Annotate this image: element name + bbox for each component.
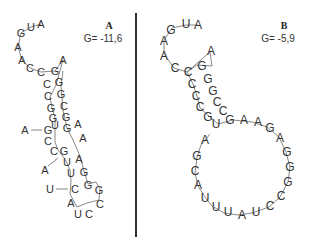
nt-b-loop-5: G [265,121,274,135]
panel-a-label: A [105,20,113,31]
nt-a-tail-2: U [27,21,35,33]
nt-b-loop-13: A [238,208,246,222]
nt-a-loop-2: G [63,122,72,134]
nt-b-stem-right-1: G [197,59,206,73]
nt-a-stem2-3: A [75,153,83,165]
nt-a-term-2: G [84,179,93,191]
nt-a-term-7: A [67,197,75,209]
nt-b-tail-4: A [160,34,168,48]
nt-a-bulge-u: U [46,183,54,195]
nt-a-loop-7: A [74,118,82,130]
nt-b-tail-6: C [171,61,180,75]
nt-a-tail-4: A [14,41,22,53]
nt-b-loop-16: U [201,191,210,205]
nt-a-loop-8: A [79,132,87,144]
nt-b-loop-20: A [201,133,209,147]
nt-b-loop-10: C [277,189,286,203]
nt-a-stem-left-3: C [44,90,52,102]
rna-secondary-structure-figure: A U G A A C C C C G G G G G C G A U G G … [0,0,312,244]
nt-b-loop-17: A [194,178,202,192]
nt-a-bulge-left: A [21,124,29,136]
panel-b-energy: G= -5,9 [261,33,295,44]
nt-b-loop-9: G [283,175,292,189]
nt-a-stem2-2: U [67,167,75,179]
nt-b-loop-14: U [224,205,233,219]
nt-a-tail-3: G [17,27,26,39]
nt-a-tail-6: C [26,62,34,74]
nt-b-loop-15: U [212,200,221,214]
nt-b-loop-2: G [225,113,234,127]
nt-a-bulge-a2: A [41,164,49,176]
nt-a-term-4: C [96,198,104,210]
nt-b-loop-7: G [282,145,291,159]
nt-b-loop-18: C [191,164,200,178]
nt-a-term-1: C [71,183,79,195]
panel-a-energy: G= -11,6 [84,33,123,44]
nt-a-term-3: G [95,184,104,196]
nt-a-tip: A [59,54,67,66]
nt-b-tail-5: A [160,49,168,63]
nt-a-term-5: C [85,208,93,220]
panel-a: A U G A A C C C C G G G G G C G A U G G … [14,18,122,220]
nt-b-tail-2: U [182,17,191,31]
nt-a-stem2-4: G [80,166,89,178]
panel-b-label: B [281,20,288,31]
nt-b-loop-4: A [254,115,262,129]
panel-b: A U G A A C C C C C G G G G C C A U G A … [160,17,295,222]
bond-a-bulge-2 [48,158,58,166]
nt-a-stem-right-3: G [57,88,66,100]
nt-b-loop-6: A [276,131,284,145]
nt-a-stem-left-1: C [37,66,45,78]
nt-b-loop-11: C [266,199,275,213]
nt-b-loop-8: G [285,160,294,174]
nt-b-tip: A [207,44,215,58]
nt-b-loop-19: G [192,149,201,163]
nt-b-loop-3: A [240,113,248,127]
nt-a-tail-1: A [37,18,45,30]
nt-b-loop-1: U [212,117,221,131]
nt-b-tail-1: A [194,18,202,32]
nt-a-loop-5: C [50,145,58,157]
nt-a-stem-right-2: G [55,76,64,88]
nt-a-stem-left-2: C [43,78,51,90]
nt-a-term-6: U [74,208,82,220]
nt-b-loop-12: U [252,205,261,219]
